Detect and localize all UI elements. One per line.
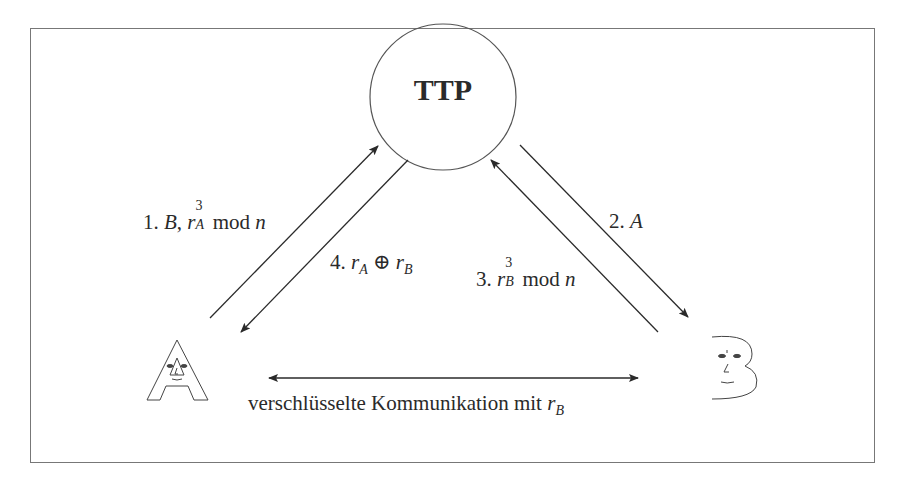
exponent: 3 <box>196 199 203 213</box>
label-step-3: 3. r3B mod n <box>476 265 576 290</box>
modulus: n <box>255 210 266 234</box>
arrow-step-3 <box>491 160 658 332</box>
variable: r <box>187 210 195 234</box>
exponent: 3 <box>505 256 512 270</box>
subscript-b: B <box>404 262 413 277</box>
subscript: B <box>505 275 514 289</box>
subscript-a: A <box>359 262 368 277</box>
arrow-step-4 <box>241 160 408 332</box>
label-step-1: 1. B, r3A mod n <box>143 208 266 233</box>
bottom-text: verschlüsselte Kommunikation mit <box>248 391 542 415</box>
modulus: n <box>565 267 576 291</box>
step-number: 1. <box>143 210 159 234</box>
arrow-step-2 <box>520 145 688 317</box>
step-number: 3. <box>476 267 492 291</box>
variable-a: r <box>351 250 359 274</box>
step-number: 2. <box>609 209 625 233</box>
variable-b: r <box>396 250 404 274</box>
mod-operator: mod <box>522 267 559 291</box>
label-encrypted-communication: verschlüsselte Kommunikation mit rB <box>248 393 564 418</box>
variable: r <box>497 267 505 291</box>
alice-face-icon <box>147 340 208 400</box>
bob-face-icon <box>712 336 757 399</box>
xor-operator: ⊕ <box>373 250 391 274</box>
ttp-label: TTP <box>383 73 503 107</box>
subscript: B <box>555 403 564 418</box>
label-step-4: 4. rA ⊕ rB <box>330 252 413 277</box>
subscript: A <box>196 218 205 232</box>
mod-operator: mod <box>213 210 250 234</box>
step-number: 4. <box>330 250 346 274</box>
label-step-2: 2. A <box>609 211 643 232</box>
party-name: B <box>164 210 177 234</box>
party-name: A <box>630 209 643 233</box>
comma: , <box>177 210 182 234</box>
